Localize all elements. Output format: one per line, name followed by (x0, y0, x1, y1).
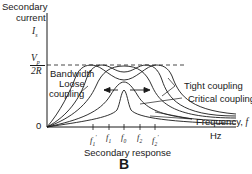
x-axis-unit: Hz (210, 131, 222, 141)
figure-label: B (119, 159, 129, 169)
y-axis-label-line1: Secondary (2, 2, 47, 12)
vp-over-2r-denominator: 2R (31, 66, 42, 76)
annotation-leaders (81, 70, 192, 119)
vp-subscript: p (37, 59, 40, 65)
tick-f2: f2 (137, 132, 142, 146)
frequency-symbol: f (245, 117, 248, 127)
tight-coupling-label: Tight coupling (184, 81, 243, 91)
current-subscript: s (35, 32, 37, 38)
tick-f1: f1 (106, 132, 111, 146)
origin-label: 0 (36, 121, 41, 131)
bandwidth-arrows (104, 88, 150, 93)
tick-f0: f0 (121, 132, 126, 146)
critical-coupling-label: Critical coupling (188, 94, 252, 104)
y-axis-label-line2: current (16, 13, 46, 23)
frequency-text: Frequency, (196, 116, 245, 127)
frequency-label: Frequency, f (196, 117, 248, 127)
loose-coupling-label-line2: coupling (49, 89, 84, 99)
y-axis-symbol: Is (32, 26, 38, 40)
